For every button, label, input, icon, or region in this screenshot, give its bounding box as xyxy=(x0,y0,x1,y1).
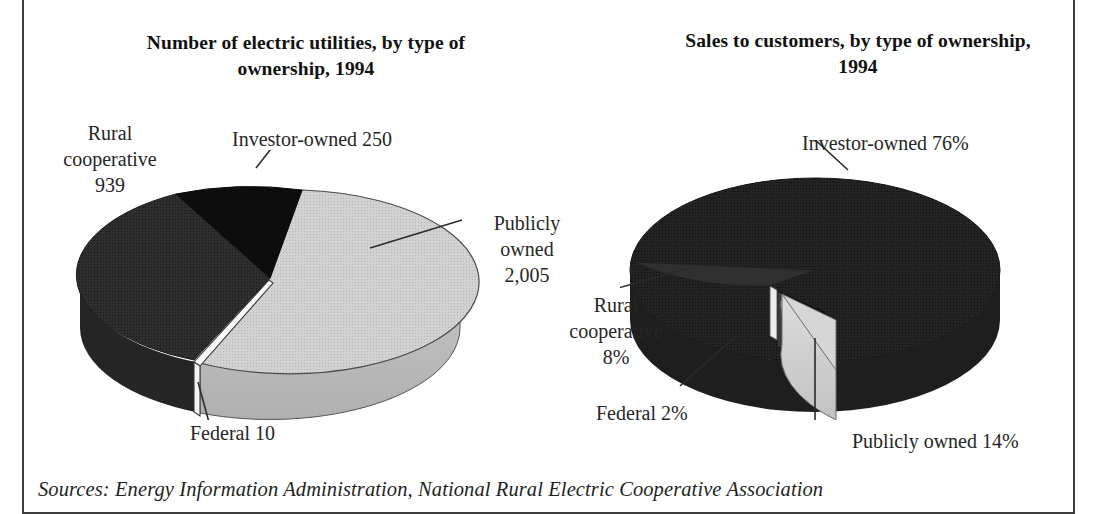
label-rural-cooperative-utilities: Rural cooperative 939 xyxy=(26,120,194,198)
figure-panel: Number of electric utilities, by type of… xyxy=(0,0,1097,514)
frame-left-rule xyxy=(22,0,24,514)
chart-title-utilities: Number of electric utilities, by type of… xyxy=(108,30,504,82)
sources-note: Sources: Energy Information Administrati… xyxy=(38,478,823,501)
label-federal-utilities: Federal 10 xyxy=(190,420,360,446)
pie-chart-sales xyxy=(620,140,1020,420)
label-publicly-owned-sales: Publicly owned 14% xyxy=(852,428,1072,454)
label-investor-owned-sales: Investor-owned 76% xyxy=(802,130,1042,156)
label-publicly-owned-utilities: Publicly owned 2,005 xyxy=(452,210,602,288)
label-investor-owned-utilities: Investor-owned 250 xyxy=(232,126,462,152)
label-rural-cooperative-sales: Rural cooperative 8% xyxy=(534,292,698,370)
label-federal-sales: Federal 2% xyxy=(596,400,756,426)
frame-right-rule xyxy=(1073,0,1075,514)
slice-side-federal xyxy=(770,286,777,340)
leader-line-investor-left xyxy=(256,150,292,168)
chart-title-sales: Sales to customers, by type of ownership… xyxy=(672,28,1044,80)
